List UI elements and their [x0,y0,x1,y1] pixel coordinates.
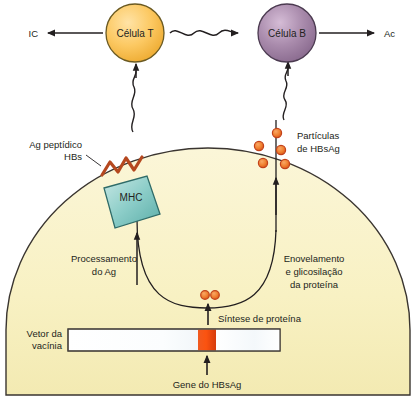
mhc-to-tcell-signal [132,64,137,132]
ic-label: IC [29,28,39,39]
vector-label-line2: vacínia [32,340,63,351]
vector-bar-right-segment [216,330,280,351]
ribosome-subunit [211,291,220,300]
hbsag-particle [258,158,267,167]
ac-output: Ac [319,28,395,39]
hbsag-gene-segment [198,330,216,351]
processing-label-line1: Processamento [71,253,137,264]
hbsag-particle [254,141,263,150]
folding-label-line1: Enovelamento [284,253,345,264]
cell-membrane-outline [6,148,410,395]
diagram-canvas: MHC Ag peptídico HBs Partículas de HBsAg [0,0,416,407]
b-cell[interactable]: Célula B [258,4,316,62]
vector-label-line1: Vetor da [27,328,63,339]
t-cell-label: Célula T [116,28,153,39]
tcell-to-bcell-signal [170,30,238,35]
particles-label-line2: de HBsAg [297,143,340,154]
hbsag-particle [276,145,285,154]
peptide-leader-line [86,155,101,166]
folding-label-line2: e glicosilação [285,266,342,277]
hbsag-particle [280,159,289,168]
ic-output: IC [29,28,104,39]
folding-label-line3: da proteína [290,279,339,290]
b-cell-label: Célula B [268,28,306,39]
host-cell-body [6,148,410,395]
wavy-signal-left-tail [132,71,137,132]
immunology-diagram-svg: MHC Ag peptídico HBs Partículas de HBsAg [0,0,416,407]
particles-label-line1: Partículas [297,130,339,141]
peptide-label-line2: HBs [64,151,82,162]
vaccinia-vector-bar[interactable] [68,329,280,351]
particles-to-bcell-signal [283,62,288,120]
mhc-label: MHC [120,192,143,203]
processing-label-line2: do Ag [92,266,116,277]
gene-label: Gene do HBsAg [173,379,242,390]
hbsag-particle [272,128,281,137]
wavy-horizontal-arrow [170,30,238,35]
peptide-label-line1: Ag peptídico [29,139,82,150]
ribosome-subunit [201,291,210,300]
synthesis-label: Síntese de proteína [218,313,302,324]
ac-label: Ac [384,28,395,39]
t-cell[interactable]: Célula T [106,4,164,62]
